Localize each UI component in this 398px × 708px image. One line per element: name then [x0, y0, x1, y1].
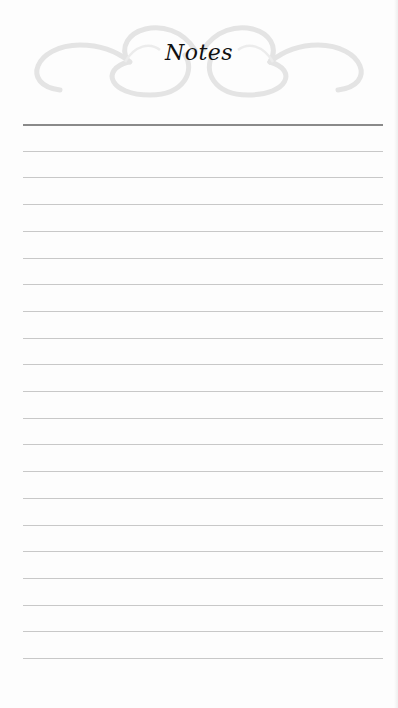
ruled-line — [23, 231, 383, 232]
ruled-line — [23, 364, 383, 365]
ruled-line — [23, 124, 383, 126]
ruled-line — [23, 605, 383, 606]
ruled-line — [23, 338, 383, 339]
ruled-line — [23, 551, 383, 552]
ruled-line — [23, 151, 383, 152]
ruled-line — [23, 525, 383, 526]
ruled-line — [23, 658, 383, 659]
paper-edge-shadow — [394, 0, 398, 708]
ruled-line — [23, 418, 383, 419]
ruled-line — [23, 444, 383, 445]
ruled-line — [23, 177, 383, 178]
ruled-line — [23, 498, 383, 499]
ruled-line — [23, 471, 383, 472]
page-title: Notes — [0, 40, 398, 65]
ruled-line — [23, 578, 383, 579]
ruled-line — [23, 631, 383, 632]
ruled-line — [23, 258, 383, 259]
ruled-line — [23, 391, 383, 392]
ruled-line — [23, 311, 383, 312]
ruled-line — [23, 204, 383, 205]
ruled-line — [23, 284, 383, 285]
